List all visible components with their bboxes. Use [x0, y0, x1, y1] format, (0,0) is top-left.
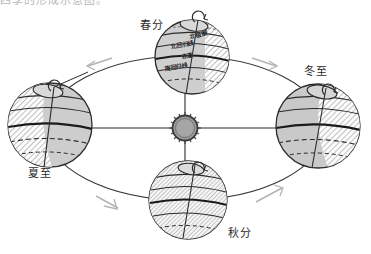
orbit-arrow-lower-left: [96, 196, 118, 209]
seasons-diagram-figure: 四季的形成示意图。: [0, 0, 371, 254]
sun: [169, 112, 201, 144]
season-label-winter-solstice: 冬至: [304, 62, 328, 78]
season-label-spring-equinox: 春分: [140, 16, 164, 32]
season-label-autumn-equinox: 秋分: [228, 224, 252, 240]
globe-autumn-equinox: [145, 158, 237, 244]
season-label-summer-solstice: 夏至: [28, 164, 52, 180]
orbit-arrow-lower-right: [256, 185, 283, 202]
globe-winter-solstice: [276, 83, 371, 168]
globe-spring-equinox: [155, 17, 275, 98]
